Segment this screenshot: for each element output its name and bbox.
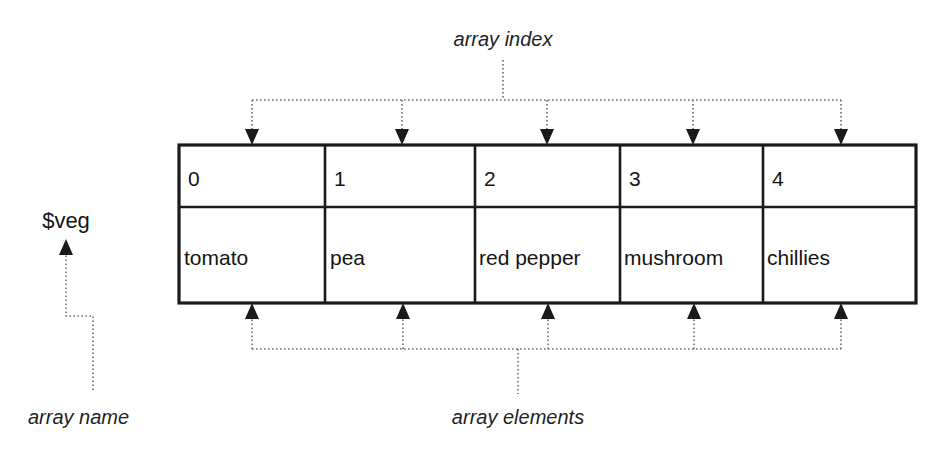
- index-cell-2: 2: [484, 167, 496, 190]
- index-cell-1: 1: [334, 167, 346, 190]
- arrow-down-icon-4: [834, 129, 848, 145]
- arrow-down-icon-0: [245, 129, 259, 145]
- array-table: 0 1 2 3 4 tomato pea red pepper mushroom…: [179, 145, 916, 303]
- value-cell-3: mushroom: [624, 246, 723, 269]
- arrow-down-icon-1: [395, 129, 409, 145]
- array-name-annotation-group: $veg array name: [28, 208, 129, 428]
- array-diagram: array index: [0, 0, 950, 463]
- array-name-label: array name: [28, 406, 129, 428]
- variable-name-label: $veg: [42, 208, 90, 233]
- table-row-value: tomato pea red pepper mushroom chillies: [184, 246, 830, 269]
- table-outer-border: [179, 145, 916, 303]
- arrow-up-icon-array-name: [59, 239, 73, 255]
- arrow-up-icon-1: [396, 303, 410, 319]
- value-cell-2: red pepper: [479, 246, 581, 269]
- arrow-down-icon-2: [540, 129, 554, 145]
- value-cell-0: tomato: [184, 246, 248, 269]
- arrow-up-icon-3: [687, 303, 701, 319]
- diagram-canvas: array index: [0, 0, 950, 463]
- arrow-up-icon-2: [541, 303, 555, 319]
- arrow-up-icon-4: [834, 303, 848, 319]
- array-elements-label: array elements: [452, 406, 584, 428]
- index-cell-0: 0: [188, 167, 200, 190]
- arrow-down-icon-3: [686, 129, 700, 145]
- array-name-connector-line: [66, 248, 93, 390]
- value-cell-4: chillies: [767, 246, 830, 269]
- array-index-label: array index: [454, 28, 554, 50]
- index-cell-3: 3: [629, 167, 641, 190]
- array-index-annotation-group: array index: [245, 28, 848, 145]
- table-row-index: 0 1 2 3 4: [188, 167, 784, 190]
- index-cell-4: 4: [772, 167, 784, 190]
- arrow-up-icon-0: [245, 303, 259, 319]
- value-cell-1: pea: [330, 246, 365, 269]
- array-elements-annotation-group: array elements: [245, 303, 848, 428]
